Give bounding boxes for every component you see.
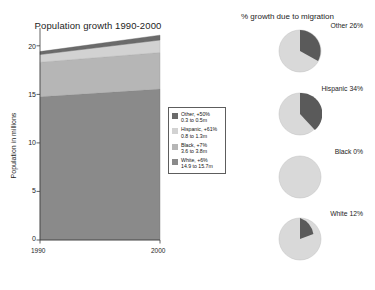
pie-chart-black [278,155,322,199]
pie-label-other: Other 26% [331,22,364,29]
pie-block-black: Black 0% [200,148,375,210]
legend-swatch-white [172,159,178,165]
legend-swatch-black [172,144,178,150]
pie-block-other: Other 26% [200,22,375,84]
area-band-white [40,89,160,240]
stacked-area-chart: Population growth 1990-2000 Population i… [0,0,200,290]
pies-panel-title: % growth due to migration [200,12,375,21]
pie-label-white: White 12% [330,210,363,217]
x-tick-2000: 2000 [151,247,165,254]
figure-canvas: Population growth 1990-2000 Population i… [0,0,375,290]
pie-label-black: Black 0% [335,148,363,155]
pie-label-hispanic: Hispanic 34% [321,85,363,92]
legend-swatch-other [172,113,178,119]
legend-swatch-hispanic [172,128,178,134]
pie-remainder-black [279,156,321,198]
pie-chart-hispanic [278,92,322,136]
pie-chart-white [278,217,322,261]
migration-pies-panel: % growth due to migration Other 26% Hisp… [200,0,375,290]
x-tick-1990: 1990 [31,247,45,254]
pie-chart-other [278,29,322,73]
pie-block-hispanic: Hispanic 34% [200,85,375,147]
pie-block-white: White 12% [200,210,375,272]
